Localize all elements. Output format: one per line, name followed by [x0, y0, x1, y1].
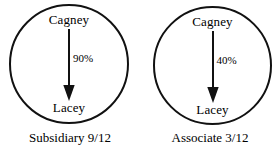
diagram-canvas: Cagney 90% Lacey Subsidiary 9/12 Cagney … [0, 0, 280, 148]
diagram-panel-associate: Cagney 40% Lacey Associate 3/12 [140, 0, 280, 148]
panel-caption: Associate 3/12 [140, 130, 280, 146]
panel-caption: Subsidiary 9/12 [0, 130, 140, 146]
down-arrow-icon [206, 31, 219, 105]
target-node-label: Lacey [9, 100, 129, 115]
edge-percentage-label: 40% [217, 54, 237, 67]
source-node-label: Cagney [153, 14, 272, 29]
circle-group-subsidiary: Cagney 90% Lacey [9, 4, 129, 124]
circle-group-associate: Cagney 40% Lacey [153, 6, 272, 125]
diagram-panel-subsidiary: Cagney 90% Lacey Subsidiary 9/12 [0, 0, 140, 148]
source-node-label: Cagney [9, 12, 129, 27]
edge-percentage-label: 90% [73, 52, 93, 65]
target-node-label: Lacey [153, 102, 272, 117]
down-arrow-icon [63, 29, 76, 103]
